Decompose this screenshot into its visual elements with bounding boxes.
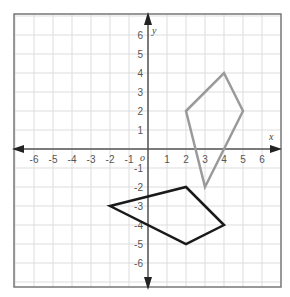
x-axis-label: x [268,131,274,142]
x-tick-label: 3 [202,154,208,165]
x-tick-label: 6 [259,154,265,165]
y-tick-label: -5 [134,239,143,250]
y-tick-label: 2 [137,106,143,117]
y-tick-label: -1 [134,163,143,174]
y-tick-label: -3 [134,201,143,212]
x-tick-label: -2 [106,154,115,165]
x-tick-label: 4 [221,154,227,165]
y-tick-label: 5 [137,49,143,60]
x-axis-right-arrow-icon [270,145,282,153]
y-tick-label: 3 [137,87,143,98]
x-tick-label: -4 [68,154,77,165]
origin-label: o [140,152,145,163]
y-tick-label: -6 [134,258,143,269]
y-tick-label: -2 [134,182,143,193]
coordinate-plane: x y o -6-5-4-3-2-1123456 654321-1-2-3-4-… [0,0,290,297]
x-tick-label: 1 [164,154,170,165]
y-tick-label: 6 [137,30,143,41]
x-tick-label: 5 [240,154,246,165]
x-tick-label: -6 [30,154,39,165]
x-tick-label: -5 [49,154,58,165]
x-tick-label: -3 [87,154,96,165]
y-axis-label: y [151,25,157,36]
x-tick-label: 2 [183,154,189,165]
y-tick-label: 4 [137,68,143,79]
y-axis-down-arrow-icon [144,277,152,290]
y-tick-label: 1 [137,125,143,136]
x-tick-label: -1 [125,154,134,165]
